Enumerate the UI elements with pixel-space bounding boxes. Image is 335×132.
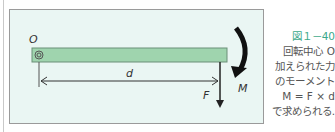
figure-caption: 図１－40 回転中心 O 加えられた力 のモーメント M = F × d で求め… <box>268 29 335 119</box>
caption-line: で求められる. <box>268 104 335 119</box>
caption-line: 回転中心 O <box>268 44 335 59</box>
beam <box>32 48 227 62</box>
distance-label: d <box>126 67 134 80</box>
caption-title: 図１－40 <box>268 29 335 44</box>
origin-label: O <box>29 33 38 46</box>
force-label: F <box>203 89 210 102</box>
moment-arrow-icon <box>231 28 247 78</box>
force-arrow-icon <box>216 62 224 108</box>
caption-line: M = F × d <box>268 89 335 104</box>
moment-label: M <box>238 82 248 95</box>
caption-line: のモーメント <box>268 74 335 89</box>
caption-line: 加えられた力 <box>268 59 335 74</box>
